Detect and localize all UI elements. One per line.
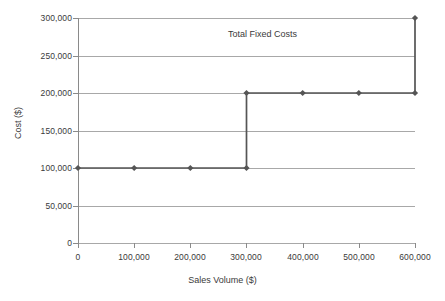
data-point-marker	[75, 165, 81, 171]
data-point-marker	[243, 90, 249, 96]
data-point-marker	[243, 165, 249, 171]
data-point-marker	[412, 90, 418, 96]
data-point-marker	[131, 165, 137, 171]
data-point-marker	[412, 15, 418, 21]
data-point-marker	[187, 165, 193, 171]
data-point-marker	[356, 90, 362, 96]
chart-figure: 300,000 250,000 200,000 150,000 100,000 …	[0, 0, 445, 301]
data-point-marker	[300, 90, 306, 96]
series-layer	[0, 0, 445, 301]
